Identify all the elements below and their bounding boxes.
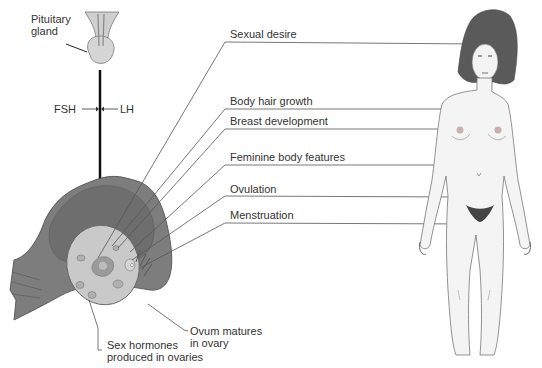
hormones-label-line1: Sex hormones <box>107 339 203 351</box>
fsh-arrow-icon <box>96 107 99 112</box>
effect-label-body-hair-growth: Body hair growth <box>230 95 313 107</box>
effect-label-sexual-desire: Sexual desire <box>230 28 297 40</box>
ovum-label-line1: Ovum matures <box>190 325 262 337</box>
pituitary-pointer-line <box>66 44 87 52</box>
pituitary-label-line2: gland <box>31 25 71 37</box>
effect-label-menstruation: Menstruation <box>230 209 294 221</box>
female-body-illustration <box>419 10 530 355</box>
lh-label: LH <box>120 103 134 115</box>
fsh-label: FSH <box>54 103 76 115</box>
effect-label-feminine-body-features: Feminine body features <box>230 151 345 163</box>
hormones-label-line2: produced in ovaries <box>107 351 203 363</box>
sex-hormones-label: Sex hormones produced in ovaries <box>107 339 203 363</box>
lh-arrow-icon <box>101 107 104 112</box>
pituitary-gland-label: Pituitary gland <box>31 13 71 37</box>
pituitary-label-line1: Pituitary <box>31 13 71 25</box>
pituitary-gland-illustration <box>85 12 119 63</box>
effect-label-breast-development: Breast development <box>230 115 328 127</box>
effect-label-ovulation: Ovulation <box>230 183 276 195</box>
